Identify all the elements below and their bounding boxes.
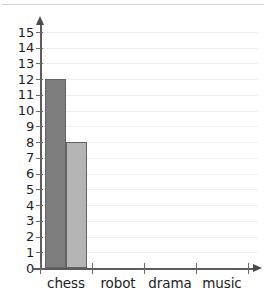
y-axis-tick-label: 15 (8, 26, 34, 39)
y-axis-tick-label-wrap: 13 (4, 57, 34, 70)
x-axis-tick (92, 263, 93, 274)
y-axis-tick (36, 126, 43, 127)
y-axis-tick-label: 2 (8, 230, 34, 243)
y-axis-tick-label: 3 (8, 214, 34, 227)
gridline (40, 63, 258, 64)
x-axis-line (32, 268, 254, 270)
y-axis-tick-label-wrap: 4 (4, 199, 34, 212)
y-axis-tick (36, 95, 43, 96)
y-axis-tick (36, 111, 43, 112)
y-axis-tick (36, 48, 43, 49)
y-axis-tick-label: 12 (8, 73, 34, 86)
y-axis-tick (36, 142, 43, 143)
gridline (40, 111, 258, 112)
y-axis-tick-label-wrap: 10 (4, 104, 34, 117)
y-axis-tick (36, 237, 43, 238)
y-axis-tick-label: 14 (8, 41, 34, 54)
y-axis-tick-label-wrap: 15 (4, 26, 34, 39)
y-axis-tick-label-wrap: 0 (4, 262, 34, 275)
y-axis-tick-label-wrap: 3 (4, 214, 34, 227)
y-axis-tick-label-wrap: 8 (4, 136, 34, 149)
x-axis-tick (144, 263, 145, 274)
x-axis-category-label: robot (92, 276, 144, 291)
bar (66, 142, 87, 268)
y-axis-tick-label-wrap: 2 (4, 230, 34, 243)
y-axis-arrow-icon (36, 16, 44, 25)
x-axis-category-label: music (196, 276, 248, 291)
y-axis-tick (36, 32, 43, 33)
y-axis-tick-label: 5 (8, 183, 34, 196)
y-axis-tick-label-wrap: 14 (4, 41, 34, 54)
gridline (40, 48, 258, 49)
bar (45, 79, 66, 268)
x-axis-arrow-icon (253, 264, 262, 272)
y-axis-tick (36, 79, 43, 80)
y-axis-tick-label: 4 (8, 199, 34, 212)
y-axis-tick-label-wrap: 9 (4, 120, 34, 133)
y-axis-tick-label-wrap: 1 (4, 246, 34, 259)
y-axis-tick-label: 7 (8, 151, 34, 164)
y-axis-tick (36, 174, 43, 175)
x-axis-tick (40, 263, 41, 274)
x-axis-tick (196, 263, 197, 274)
gridline (40, 32, 258, 33)
y-axis-tick-label: 0 (8, 262, 34, 275)
y-axis-tick-label-wrap: 11 (4, 88, 34, 101)
y-axis-tick-label: 11 (8, 88, 34, 101)
y-axis-tick-label-wrap: 12 (4, 73, 34, 86)
bar-chart: 0123456789101112131415 chessrobotdramamu… (0, 0, 272, 298)
y-axis-tick (36, 158, 43, 159)
y-axis-tick (36, 189, 43, 190)
gridline (40, 126, 258, 127)
y-axis-tick-label: 8 (8, 136, 34, 149)
y-axis-tick (36, 221, 43, 222)
y-axis-line (40, 24, 42, 269)
y-axis-tick-label: 9 (8, 120, 34, 133)
y-axis-tick-label: 13 (8, 57, 34, 70)
x-axis-tick (248, 263, 249, 274)
y-axis-tick (36, 252, 43, 253)
y-axis-tick (36, 63, 43, 64)
x-axis-category-label: drama (144, 276, 196, 291)
y-axis-tick-label-wrap: 5 (4, 183, 34, 196)
y-axis-tick (36, 205, 43, 206)
y-axis-tick-label-wrap: 6 (4, 167, 34, 180)
y-axis-tick-label: 10 (8, 104, 34, 117)
y-axis-tick-label-wrap: 7 (4, 151, 34, 164)
y-axis-tick-label: 6 (8, 167, 34, 180)
gridline (40, 79, 258, 80)
x-axis-category-label: chess (40, 276, 92, 291)
gridline (40, 95, 258, 96)
y-axis-tick-label: 1 (8, 246, 34, 259)
